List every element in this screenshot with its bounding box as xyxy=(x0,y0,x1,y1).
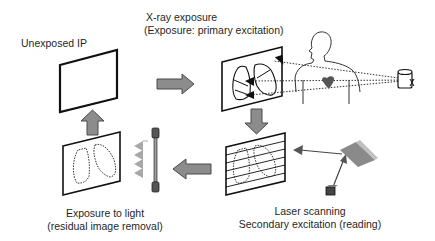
residual-image-removal-label: (residual image removal) xyxy=(35,220,175,232)
arrow-down-icon xyxy=(245,109,268,134)
arrow-right-icon xyxy=(157,74,194,94)
exposure-to-light-label: Exposure to light xyxy=(45,207,165,219)
heart-icon xyxy=(322,76,334,89)
laser-source-icon xyxy=(326,185,338,195)
patient-silhouette-icon xyxy=(295,32,360,104)
unexposed-ip-label: Unexposed IP xyxy=(21,37,87,49)
erase-plate xyxy=(63,132,120,195)
xray-exposure-sublabel: (Exposure: primary excitation) xyxy=(144,24,283,36)
xray-exposure-label: X-ray exposure xyxy=(146,11,217,23)
arrow-up-icon xyxy=(81,110,104,135)
scanning-plate xyxy=(226,133,285,195)
xray-tube-icon xyxy=(398,70,414,89)
laser-beam xyxy=(293,145,347,187)
secondary-excitation-label: Secondary excitation (reading) xyxy=(230,218,390,230)
erasing-lamp-icon xyxy=(152,128,159,192)
arrow-left-icon xyxy=(173,159,211,179)
unexposed-plate xyxy=(60,50,117,112)
laser-scanning-label: Laser scanning xyxy=(250,205,370,217)
light-rays-icon xyxy=(134,141,148,178)
